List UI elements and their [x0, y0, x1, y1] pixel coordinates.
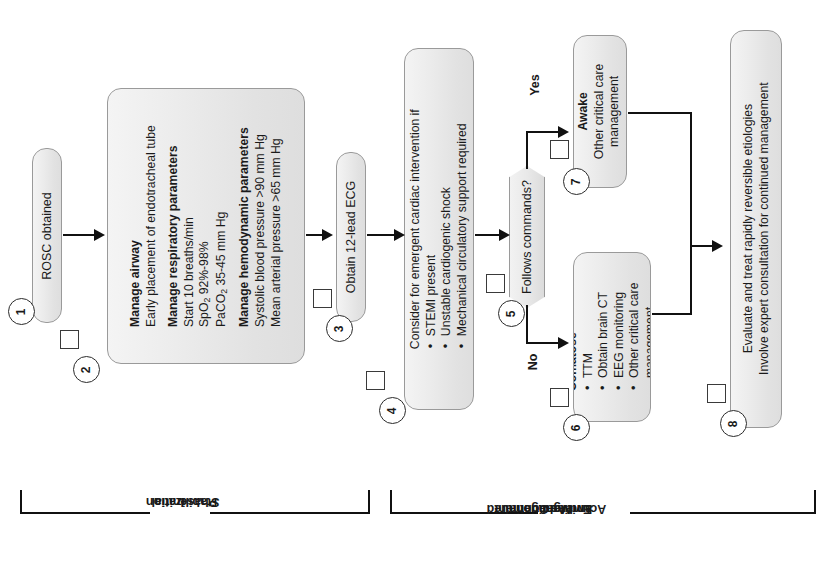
bracket-2-tick-right	[814, 490, 816, 514]
bracket-2-tick-left	[390, 490, 392, 514]
node-rosc-obtained[interactable]: ROSC obtained	[32, 148, 62, 323]
node-awake-management[interactable]: Awake Other critical care management	[573, 35, 627, 188]
paco2-label: PaCO	[214, 294, 228, 327]
node-8-line-2: Involve expert consultation for continue…	[756, 83, 772, 376]
connector-yes-vertical	[526, 131, 528, 169]
node-4-bullet-3: Mechanical circulatory support required	[455, 109, 471, 349]
phase-label-continued-management: Continued Management and Additional Emer…	[468, 470, 628, 546]
checkbox-marker-3[interactable]	[313, 289, 332, 308]
node-5-line-1: Follows commands?	[520, 180, 534, 294]
node-6-bullet-3: EEG monitoring	[612, 283, 628, 392]
spo2-subscript: 2	[203, 298, 213, 303]
connector-6-to-merge	[652, 313, 691, 315]
node-number-8: 8	[720, 410, 747, 437]
arrowhead-1-to-2	[94, 229, 105, 241]
arrowhead-merge-to-8	[712, 240, 723, 252]
node-2-line-5: SpO2 92%-98%	[197, 125, 213, 327]
node-2-line-7: Manage hemodynamic parameters	[237, 125, 253, 327]
checkbox-marker-2[interactable]	[60, 330, 79, 349]
node-4-bullet-2: Unstable cardiogenic shock	[439, 109, 455, 349]
phase-2-line-5: Activities	[499, 501, 659, 516]
node-number-1: 1	[8, 298, 35, 325]
connector-1-to-2	[63, 234, 96, 236]
phase-2-wrap: Continued Management and Additional Emer…	[510, 428, 586, 569]
phase-1-line-3: Phase	[128, 493, 268, 508]
node-2-line-9: Mean arterial pressure >65 mm Hg	[268, 125, 284, 327]
node-follows-commands-decision[interactable]: Follows commands?	[509, 166, 545, 308]
flowchart-canvas: ROSC obtained 1 Manage airway Early plac…	[0, 0, 833, 569]
node-1-line-1: ROSC obtained	[39, 192, 55, 280]
node-6-bullet-4-line-a: Other critical care	[628, 283, 642, 379]
arrowhead-2-to-3	[322, 229, 333, 241]
node-2-line-4: Start 10 breaths/min	[182, 125, 198, 327]
checkbox-marker-4[interactable]	[366, 371, 385, 390]
node-2-spacer-a	[159, 125, 166, 327]
phase-label-initial-stabilization: Initial Stabilization Phase	[113, 478, 253, 524]
arrowhead-3-to-4	[394, 229, 405, 241]
node-7-line-2: Other critical care	[592, 64, 608, 160]
spo2-label: SpO	[197, 303, 211, 327]
checkbox-marker-7[interactable]	[550, 140, 569, 159]
paco2-subscript: 2	[219, 289, 229, 294]
branch-label-yes: Yes	[524, 78, 546, 92]
node-number-2: 2	[73, 356, 100, 383]
connector-yes-horizontal	[526, 131, 562, 133]
connector-no-vertical	[526, 305, 528, 344]
node-6-bullet-2: Obtain brain CT	[596, 283, 612, 392]
node-2-line-1: Manage airway	[128, 125, 144, 327]
node-2-spacer-b	[230, 125, 237, 327]
node-4-bullet-1: STEMI present	[423, 109, 439, 349]
node-8-line-1: Evaluate and treat rapidly reversible et…	[740, 83, 756, 376]
checkbox-marker-8[interactable]	[707, 384, 726, 403]
node-6-bullet-4-line-b: management	[643, 307, 651, 378]
arrowhead-4-to-5	[499, 229, 510, 241]
node-comatose-management[interactable]: Comatose TTM Obtain brain CT EEG monitor…	[573, 252, 651, 422]
branch-label-no: No	[525, 355, 542, 369]
node-2-line-2: Early placement of endotracheal tube	[144, 125, 160, 327]
node-number-4: 4	[379, 397, 406, 424]
node-number-7: 7	[563, 168, 590, 195]
node-number-5: 5	[498, 300, 525, 327]
arrowhead-yes	[558, 126, 569, 138]
connector-merge-vertical	[690, 112, 692, 315]
node-number-3: 3	[326, 315, 353, 342]
node-6-line-1: Comatose	[573, 283, 581, 392]
node-7-line-3: management	[608, 64, 624, 160]
paco2-value: 35-45 mm Hg	[214, 212, 228, 289]
node-consider-emergent-cardiac-intervention[interactable]: Consider for emergent cardiac interventi…	[404, 48, 474, 410]
node-4-line-1: Consider for emergent cardiac interventi…	[408, 109, 424, 349]
node-manage-airway-respiratory-hemodynamic[interactable]: Manage airway Early placement of endotra…	[107, 88, 305, 364]
bracket-1-tick-left	[20, 490, 22, 514]
node-obtain-12-lead-ecg[interactable]: Obtain 12-lead ECG	[336, 152, 366, 322]
node-7-line-1: Awake	[577, 64, 593, 160]
node-2-line-3: Manage respiratory parameters	[166, 125, 182, 327]
checkbox-marker-5[interactable]	[486, 274, 505, 293]
node-2-line-8: Systolic blood pressure >90 mm Hg	[253, 125, 269, 327]
phase-1-wrap: Initial Stabilization Phase	[160, 431, 206, 569]
node-evaluate-treat-reversible-etiologies[interactable]: Evaluate and treat rapidly reversible et…	[730, 30, 782, 428]
connector-3-to-4	[367, 234, 397, 236]
node-6-bullet-1: TTM	[581, 283, 597, 392]
spo2-value: 92%-98%	[197, 241, 211, 297]
arrowhead-no	[558, 337, 569, 349]
node-2-line-6: PaCO2 35-45 mm Hg	[214, 125, 230, 327]
node-6-bullet-4: Other critical caremanagement	[628, 283, 651, 392]
bracket-1-tick-right	[368, 490, 370, 514]
connector-no-horizontal	[526, 342, 562, 344]
connector-7-to-merge	[628, 112, 691, 114]
node-3-line-1: Obtain 12-lead ECG	[343, 181, 359, 294]
checkbox-marker-6[interactable]	[550, 388, 569, 407]
